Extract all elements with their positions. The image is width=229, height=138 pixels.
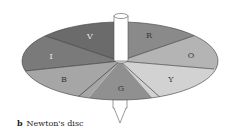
spindle-tip <box>113 99 127 123</box>
caption-text: Newton's disc <box>27 119 84 128</box>
label-orange: O <box>188 51 195 60</box>
label-violet: V <box>86 32 93 41</box>
label-blue: B <box>61 75 67 84</box>
label-yellow: Y <box>167 75 174 84</box>
spindle <box>114 14 128 62</box>
figure-caption: bNewton's disc <box>17 118 83 128</box>
label-indigo: I <box>49 52 52 61</box>
label-green: G <box>118 84 124 93</box>
caption-letter: b <box>17 118 23 128</box>
label-red: R <box>146 31 153 40</box>
